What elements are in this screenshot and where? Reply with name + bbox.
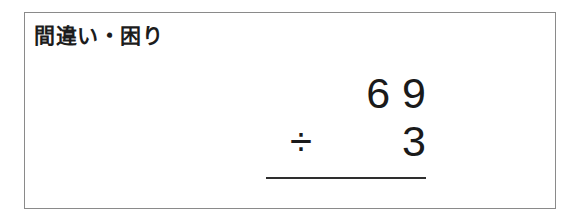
divisor-row: ÷ 3 — [266, 117, 426, 165]
dividend-value: 6 9 — [366, 69, 426, 117]
worksheet-card: 間違い・困り 6 9 ÷ 3 — [24, 12, 556, 209]
division-problem: 6 9 ÷ 3 — [266, 69, 426, 165]
page-title: 間違い・困り — [34, 25, 163, 46]
divisor-value: 3 — [402, 117, 426, 165]
division-operator-icon: ÷ — [290, 117, 312, 165]
dividend-row: 6 9 — [266, 69, 426, 117]
answer-rule-line — [266, 177, 426, 179]
